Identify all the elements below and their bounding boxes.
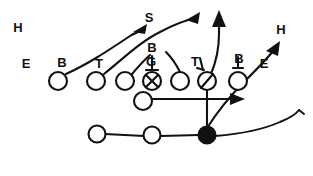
play-diagram-canvas: H E B T S B G T B E H: [0, 0, 313, 176]
route-lineman5-up: [166, 52, 180, 72]
label-e-right: E: [260, 56, 269, 71]
label-t-right: T: [191, 54, 199, 69]
player-center: [143, 72, 161, 90]
route-t-right-vert: [211, 10, 226, 74]
route-bottom-flat: [215, 110, 304, 136]
label-e-left: E: [22, 56, 31, 71]
player-quarterback: [134, 92, 152, 110]
player-back-mid: [144, 127, 161, 144]
label-h-left: H: [13, 20, 22, 35]
player-back-left: [89, 126, 106, 143]
player-lineman-b-left: [49, 72, 67, 90]
player-lineman-guard-left: [116, 72, 134, 90]
player-ball-carrier: [199, 127, 216, 144]
player-lineman-t-left: [87, 72, 105, 90]
player-lineman-t-right: [198, 72, 216, 90]
player-lineman-guard-right: [171, 72, 189, 90]
player-lineman-b-right: [229, 72, 247, 90]
label-b-left: B: [57, 55, 66, 70]
label-g-center: G: [146, 54, 156, 69]
football-play-diagram: H E B T S B G T B E H: [0, 0, 313, 176]
label-b-right: B: [234, 51, 243, 66]
label-h-right: H: [276, 22, 285, 37]
label-t-left: T: [95, 56, 103, 71]
label-s-top: S: [145, 10, 154, 25]
label-b-center: B: [147, 40, 156, 55]
